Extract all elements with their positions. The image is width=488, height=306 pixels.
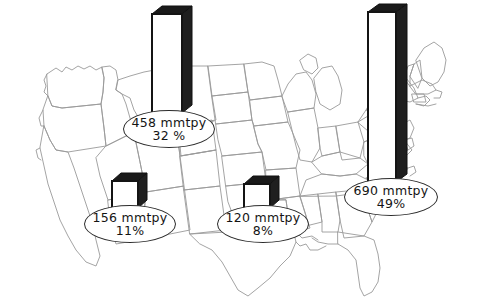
callout-percent: 11% — [116, 224, 145, 237]
callout-west: 156 mmtpy 11% — [84, 205, 176, 243]
callout-percent: 49% — [377, 197, 406, 210]
callout-south-central: 120 mmtpy 8% — [217, 205, 309, 243]
map-bar-figure: 458 mmtpy 32 % 156 mmtpy 11% 120 mmtpy 8… — [0, 0, 488, 306]
callout-labels-layer: 458 mmtpy 32 % 156 mmtpy 11% 120 mmtpy 8… — [0, 0, 488, 306]
callout-north-central: 458 mmtpy 32 % — [123, 110, 215, 148]
callout-percent: 32 % — [153, 129, 186, 142]
callout-percent: 8% — [253, 224, 273, 237]
callout-east: 690 mmtpy 49% — [344, 178, 438, 216]
